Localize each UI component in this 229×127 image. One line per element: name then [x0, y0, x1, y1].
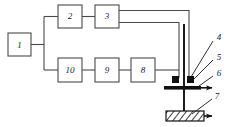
block-1[interactable]: 1 — [8, 33, 31, 56]
sample-bar — [164, 86, 201, 90]
block-8-label: 8 — [141, 65, 146, 75]
apparatus-group — [164, 24, 212, 121]
electrode-left — [172, 76, 179, 83]
callout-6-label: 6 — [217, 68, 222, 78]
block-8[interactable]: 8 — [131, 58, 155, 82]
diagram-canvas: 1 2 3 10 9 8 — [0, 0, 229, 127]
substrate-hatched — [166, 111, 204, 121]
callout-4: 4 — [217, 32, 222, 42]
block-9[interactable]: 9 — [95, 58, 119, 82]
callout-leaders — [191, 41, 213, 114]
leader-line-5 — [194, 60, 213, 79]
block-10[interactable]: 10 — [58, 58, 82, 82]
callout-6: 6 — [217, 68, 222, 78]
callout-7-label: 7 — [215, 91, 220, 101]
technical-diagram: 1 2 3 10 9 8 — [0, 0, 229, 127]
callout-7: 7 — [215, 91, 220, 101]
electrode-right — [187, 76, 194, 83]
block-10-label: 10 — [66, 65, 76, 75]
leader-line-6 — [199, 76, 213, 86]
block-2[interactable]: 2 — [58, 5, 82, 28]
block-2-label: 2 — [68, 11, 73, 21]
callout-5-label: 5 — [217, 52, 222, 62]
block-3[interactable]: 3 — [95, 5, 119, 28]
block-1-label: 1 — [17, 40, 22, 50]
callout-5: 5 — [217, 52, 222, 62]
block-3-label: 3 — [104, 11, 110, 21]
block-9-label: 9 — [105, 65, 110, 75]
callout-4-label: 4 — [217, 32, 222, 42]
